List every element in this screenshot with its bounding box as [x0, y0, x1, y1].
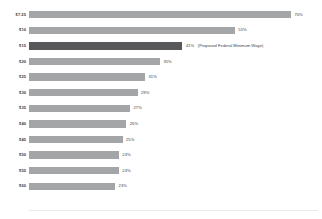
- bar-value-label: 70%: [295, 13, 303, 17]
- bar-value-label: 24%: [122, 169, 130, 173]
- bar-value-label: 27%: [134, 106, 142, 110]
- bar-rows-container: $7.2570%$1055%$1541%(Proposed Federal Mi…: [0, 7, 322, 194]
- bar-value-label: 55%: [238, 28, 246, 32]
- bar-value-label: 41%: [186, 44, 194, 48]
- bar-value-label: 23%: [119, 184, 127, 188]
- bar-row: $1055%: [0, 23, 322, 39]
- bar: [29, 73, 145, 80]
- bar-value-group: 41%(Proposed Federal Minimum Wage): [182, 44, 263, 48]
- bar-value-label: 29%: [141, 91, 149, 95]
- bar-value-label: 35%: [164, 60, 172, 64]
- bar-value-group: 31%: [145, 75, 157, 79]
- bar-category-label: $7.25: [0, 13, 29, 17]
- bar-row: $6023%: [0, 179, 322, 195]
- bar-track: 24%: [29, 163, 322, 179]
- bar-track: 27%: [29, 101, 322, 117]
- bar-value-group: 70%: [291, 13, 303, 17]
- bar-category-label: $45: [0, 138, 29, 142]
- bar-row: $3527%: [0, 101, 322, 117]
- bar-track: 70%: [29, 7, 322, 23]
- bar-track: 26%: [29, 116, 322, 132]
- bar-highlighted: [29, 42, 182, 49]
- bar-row: $2035%: [0, 54, 322, 70]
- bar-value-group: 25%: [123, 138, 135, 142]
- bar-category-label: $35: [0, 106, 29, 110]
- bar: [29, 105, 130, 112]
- bar-track: 23%: [29, 179, 322, 195]
- bar-value-group: 24%: [119, 169, 131, 173]
- bar-category-label: $10: [0, 28, 29, 32]
- bar-row: $1541%(Proposed Federal Minimum Wage): [0, 38, 322, 54]
- bar-category-label: $30: [0, 91, 29, 95]
- bar-row: $2531%: [0, 69, 322, 85]
- bar-value-label: 24%: [122, 153, 130, 157]
- bar-track: 29%: [29, 85, 322, 101]
- bar-category-label: $55: [0, 169, 29, 173]
- bar-category-label: $40: [0, 122, 29, 126]
- bar: [29, 183, 115, 190]
- bar-track: 55%: [29, 23, 322, 39]
- bar-category-label: $15: [0, 44, 29, 48]
- bar: [29, 120, 126, 127]
- bar-value-group: 26%: [126, 122, 138, 126]
- bar-row: $3029%: [0, 85, 322, 101]
- bar-value-group: 27%: [130, 106, 142, 110]
- bar-category-label: $60: [0, 184, 29, 188]
- bar: [29, 151, 119, 158]
- bar: [29, 27, 235, 34]
- bar-category-label: $25: [0, 75, 29, 79]
- bar-value-label: 31%: [149, 75, 157, 79]
- bar-row: $4026%: [0, 116, 322, 132]
- bar-value-label: 25%: [126, 138, 134, 142]
- bar-row: $7.2570%: [0, 7, 322, 23]
- bar-annotation: (Proposed Federal Minimum Wage): [194, 44, 263, 48]
- bar: [29, 167, 119, 174]
- bar: [29, 58, 160, 65]
- bar-track: 31%: [29, 69, 322, 85]
- bar: [29, 11, 291, 18]
- bar-value-label: 26%: [130, 122, 138, 126]
- bar-chart: $7.2570%$1055%$1541%(Proposed Federal Mi…: [0, 0, 322, 219]
- bar-row: $4525%: [0, 132, 322, 148]
- bar-category-label: $50: [0, 153, 29, 157]
- bar-value-group: 23%: [115, 184, 127, 188]
- bar-row: $5524%: [0, 163, 322, 179]
- bar-value-group: 29%: [138, 91, 150, 95]
- bar-track: 25%: [29, 132, 322, 148]
- bar-value-group: 24%: [119, 153, 131, 157]
- bar-track: 24%: [29, 147, 322, 163]
- bar-track: 41%(Proposed Federal Minimum Wage): [29, 38, 322, 54]
- bar-value-group: 55%: [235, 28, 247, 32]
- bar: [29, 89, 138, 96]
- bar-value-group: 35%: [160, 60, 172, 64]
- bar-track: 35%: [29, 54, 322, 70]
- bar-category-label: $20: [0, 60, 29, 64]
- chart-baseline: [29, 210, 318, 211]
- bar-row: $5024%: [0, 147, 322, 163]
- bar: [29, 136, 123, 143]
